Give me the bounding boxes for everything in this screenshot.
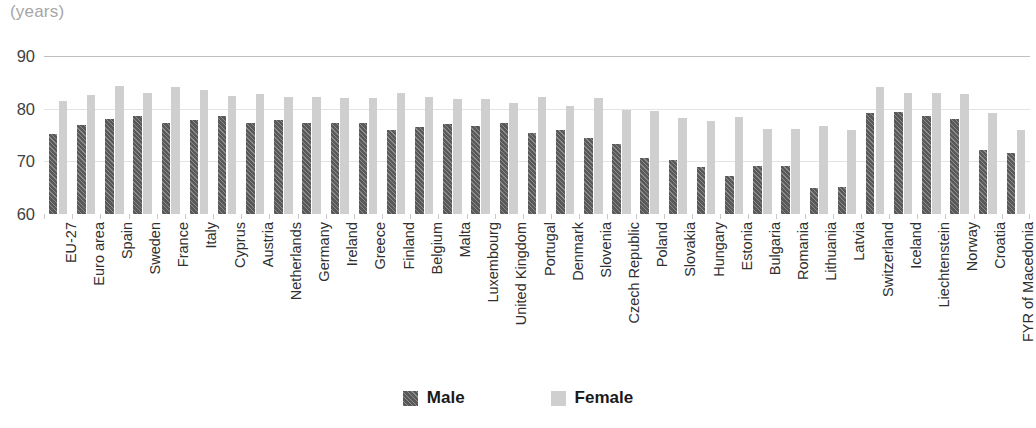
bar-female xyxy=(904,93,913,214)
x-axis-tick xyxy=(833,214,834,219)
bar-group xyxy=(241,56,269,214)
legend-label: Male xyxy=(427,388,465,408)
bar-group xyxy=(579,56,607,214)
bar-group xyxy=(692,56,720,214)
bar-male xyxy=(49,134,58,214)
bar-group xyxy=(1002,56,1030,214)
bar-female xyxy=(819,126,828,214)
category-label: Belgium xyxy=(430,222,445,274)
x-axis-tick xyxy=(495,214,496,219)
bar-female xyxy=(932,93,941,214)
chart-legend: MaleFemale xyxy=(0,388,1036,408)
bar-female xyxy=(369,98,378,214)
category-label: Slovenia xyxy=(599,222,614,278)
x-axis-tick xyxy=(1002,214,1003,219)
x-axis-tick xyxy=(213,214,214,219)
category-label: Greece xyxy=(373,222,388,270)
x-axis-tick xyxy=(410,214,411,219)
x-axis-tick xyxy=(44,214,45,219)
bar-group xyxy=(410,56,438,214)
bar-group xyxy=(44,56,72,214)
bar-male xyxy=(584,138,593,214)
bar-female xyxy=(115,86,124,214)
x-axis-tick xyxy=(467,214,468,219)
category-label: Slovakia xyxy=(683,222,698,277)
plot-area: 60708090 xyxy=(44,56,1030,214)
bar-group xyxy=(945,56,973,214)
category-label: Lithuania xyxy=(824,222,839,281)
bar-female xyxy=(397,93,406,214)
bar-female xyxy=(876,87,885,214)
bar-group xyxy=(326,56,354,214)
legend-swatch-female-icon xyxy=(551,391,566,406)
category-label: Estonia xyxy=(740,222,755,270)
bar-female xyxy=(988,113,997,214)
bar-male xyxy=(894,112,903,214)
bar-male xyxy=(218,116,227,214)
bar-male xyxy=(669,160,678,214)
x-axis-tick xyxy=(636,214,637,219)
bar-group xyxy=(664,56,692,214)
bar-male xyxy=(781,166,790,214)
bar-male xyxy=(500,123,509,214)
bar-male xyxy=(274,120,283,214)
x-axis-tick xyxy=(157,214,158,219)
bar-male xyxy=(443,124,452,214)
bar-female xyxy=(171,87,180,214)
x-axis-tick xyxy=(607,214,608,219)
bar-male xyxy=(753,166,762,214)
bar-group xyxy=(974,56,1002,214)
category-label: FYR of Macedonia xyxy=(1021,222,1036,342)
bar-male xyxy=(359,123,368,214)
legend-item-female[interactable]: Female xyxy=(551,388,634,408)
category-label: Liechtenstein xyxy=(937,222,952,307)
x-axis-tick xyxy=(382,214,383,219)
bar-group xyxy=(607,56,635,214)
bar-female xyxy=(228,96,237,215)
bar-female xyxy=(594,98,603,214)
category-label: Switzerland xyxy=(881,222,896,297)
bar-group xyxy=(382,56,410,214)
bar-group xyxy=(72,56,100,214)
category-label: Euro area xyxy=(92,222,107,286)
category-label: Poland xyxy=(655,222,670,267)
category-label: Austria xyxy=(261,222,276,267)
category-label: Croatia xyxy=(993,222,1008,269)
bar-group xyxy=(185,56,213,214)
category-label: Sweden xyxy=(148,222,163,274)
y-axis-unit-title: (years) xyxy=(10,2,64,22)
x-axis-tick xyxy=(269,214,270,219)
legend-label: Female xyxy=(575,388,634,408)
x-axis-tick xyxy=(185,214,186,219)
bar-male xyxy=(838,187,847,214)
bar-group xyxy=(298,56,326,214)
bar-male xyxy=(979,150,988,214)
bar-female xyxy=(143,93,152,214)
bar-female xyxy=(481,99,490,214)
bar-male xyxy=(387,130,396,214)
bar-male xyxy=(190,120,199,214)
bar-male xyxy=(415,127,424,214)
bar-group xyxy=(269,56,297,214)
bar-male xyxy=(556,130,565,214)
bar-female xyxy=(87,95,96,214)
bar-female xyxy=(340,98,349,214)
bar-female xyxy=(960,94,969,214)
x-axis-tick xyxy=(438,214,439,219)
bar-group xyxy=(748,56,776,214)
category-label: Luxembourg xyxy=(486,222,501,303)
bar-female xyxy=(763,129,772,214)
legend-item-male[interactable]: Male xyxy=(403,388,465,408)
category-label: Romania xyxy=(796,222,811,280)
x-axis-tick xyxy=(298,214,299,219)
y-tick-label-80: 80 xyxy=(17,99,35,118)
bar-male xyxy=(640,158,649,214)
x-axis-tick xyxy=(354,214,355,219)
category-label: Ireland xyxy=(345,222,360,266)
life-expectancy-bar-chart: (years) 60708090 EU-27Euro areaSpainSwed… xyxy=(0,0,1036,428)
bar-female xyxy=(791,129,800,214)
bar-female xyxy=(1017,130,1026,214)
bar-group xyxy=(720,56,748,214)
x-axis-tick xyxy=(692,214,693,219)
bar-group xyxy=(861,56,889,214)
